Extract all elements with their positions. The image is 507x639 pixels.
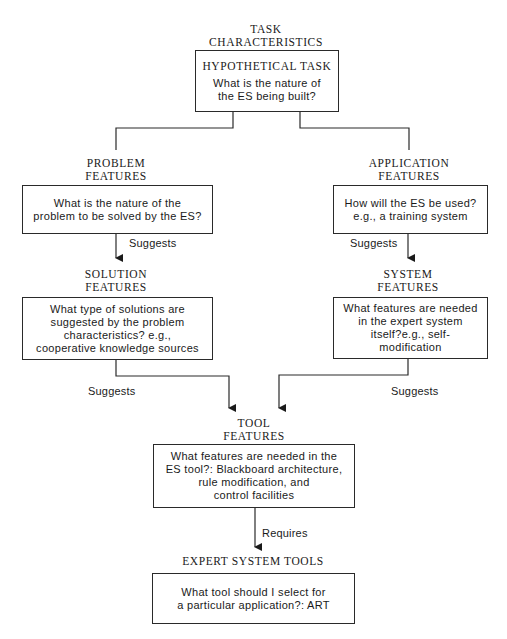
expert-system-tools-box: What tool should I select for a particul… [152,573,355,624]
application-features-question: How will the ES be used? e.g., a trainin… [345,197,477,223]
application-features-box: How will the ES be used? e.g., a trainin… [333,185,488,234]
solution-features-question: What type of solutions are suggested by … [36,303,199,355]
tool-features-box: What features are needed in the ES tool?… [153,444,355,508]
task-characteristics-heading: TASK CHARACTERISTICS [196,23,336,49]
edge-label-application-to-system: Suggests [350,237,397,249]
edge-label-system-to-tool: Suggests [391,385,438,397]
tool-features-heading: TOOL FEATURES [204,417,304,443]
problem-features-heading: PROBLEM FEATURES [66,157,166,183]
problem-features-box: What is the nature of the problem to be … [22,185,213,234]
hypothetical-task-question: What is the nature of the ES being built… [213,77,321,103]
hypothetical-task-box: HYPOTHETICAL TASK What is the nature of … [195,50,339,112]
system-features-box: What features are needed in the expert s… [333,297,488,359]
edge-label-tool-to-expert-tools: Requires [262,527,308,539]
edge-label-problem-to-solution: Suggests [129,237,176,249]
solution-features-heading: SOLUTION FEATURES [66,268,166,294]
system-features-question: What features are needed in the expert s… [343,302,477,354]
solution-features-box: What type of solutions are suggested by … [22,297,213,360]
application-features-heading: APPLICATION FEATURES [349,157,469,183]
expert-system-tools-heading: EXPERT SYSTEM TOOLS [168,555,338,568]
edge-task-to-problem [116,111,233,150]
tool-features-question: What features are needed in the ES tool?… [166,450,343,502]
edge-solution-to-tool [116,359,229,408]
edge-system-to-tool [279,358,408,408]
edge-label-solution-to-tool: Suggests [88,385,135,397]
problem-features-question: What is the nature of the problem to be … [33,197,201,223]
system-features-heading: SYSTEM FEATURES [358,268,458,294]
hypothetical-task-title: HYPOTHETICAL TASK [202,60,331,72]
expert-system-tools-question: What tool should I select for a particul… [177,586,330,612]
edge-task-to-application [300,111,409,150]
